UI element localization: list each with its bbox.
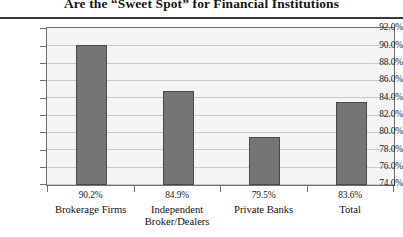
y-axis-tick-label: 84.0% xyxy=(359,93,403,102)
bar-value-label: 79.5% xyxy=(220,190,307,201)
x-axis-category-label: Total xyxy=(298,204,403,216)
y-axis-tick-mark xyxy=(40,63,46,64)
y-axis-tick-label: 86.0% xyxy=(359,75,403,84)
y-axis-tick-mark xyxy=(40,98,46,99)
y-axis-tick-label: 74.0% xyxy=(359,179,403,188)
y-axis-tick-mark xyxy=(40,184,46,185)
y-axis-tick-mark xyxy=(40,150,46,151)
y-axis-tick-label: 82.0% xyxy=(359,110,403,119)
bar xyxy=(163,91,194,185)
chart-title-band: Are the “Sweet Spot” for Financial Insti… xyxy=(0,0,403,17)
x-axis-tick-mark xyxy=(47,186,48,192)
bar-value-label: 83.6% xyxy=(307,190,394,201)
chart-title: Are the “Sweet Spot” for Financial Insti… xyxy=(0,0,403,12)
y-axis-tick-label: 76.0% xyxy=(359,162,403,171)
y-axis-tick-mark xyxy=(40,115,46,116)
x-axis-category-label-line: Total xyxy=(298,204,403,216)
title-divider-rule xyxy=(0,17,403,19)
x-axis-tick-mark xyxy=(393,186,394,192)
bar-value-label: 84.9% xyxy=(134,190,221,201)
y-axis-tick-mark xyxy=(40,167,46,168)
y-axis-tick-label: 90.0% xyxy=(359,41,403,50)
y-axis-tick-mark xyxy=(40,28,46,29)
bar xyxy=(249,137,280,185)
plot-area xyxy=(46,27,395,186)
bar-value-label: 90.2% xyxy=(47,190,134,201)
bar xyxy=(76,45,107,185)
x-axis-category-label-line: Broker/Dealers xyxy=(125,216,230,228)
y-axis-tick-mark xyxy=(40,80,46,81)
y-axis-tick-label: 78.0% xyxy=(359,145,403,154)
y-axis-tick-label: 80.0% xyxy=(359,127,403,136)
y-axis-tick-label: 92.0% xyxy=(359,23,403,32)
y-axis-tick-mark xyxy=(40,46,46,47)
y-axis-tick-label: 88.0% xyxy=(359,58,403,67)
y-axis-tick-mark xyxy=(40,132,46,133)
